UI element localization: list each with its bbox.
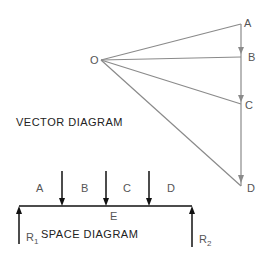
reaction-r1-arrow-icon [16, 206, 22, 214]
reaction-r1-letter: R [26, 231, 34, 243]
space-label-c: C [123, 183, 131, 194]
space-label-e: E [110, 211, 117, 222]
ray-oc [101, 60, 241, 104]
ray-ob [101, 57, 241, 60]
arrow-cd-icon [238, 175, 244, 183]
load-3-arrow-icon [146, 198, 152, 206]
space-label-b: B [81, 183, 88, 194]
reaction-r1-label: R1 [26, 232, 38, 243]
point-label-d: D [247, 183, 255, 194]
pole-label: O [90, 55, 99, 66]
point-label-a: A [244, 18, 251, 29]
diagram-canvas [0, 0, 269, 260]
space-label-a: A [36, 183, 43, 194]
arrow-bc-icon [238, 95, 244, 102]
point-label-c: C [245, 100, 253, 111]
reaction-r2-sub: 2 [207, 239, 211, 248]
load-1-arrow-icon [59, 198, 65, 206]
reaction-r1-sub: 1 [34, 237, 38, 246]
vector-diagram-title: VECTOR DIAGRAM [16, 117, 123, 128]
load-2-arrow-icon [103, 198, 109, 206]
vector-diagram [101, 24, 244, 186]
reaction-r2-arrow-icon [189, 206, 195, 214]
space-label-d: D [167, 183, 175, 194]
space-diagram-title: SPACE DIAGRAM [41, 229, 138, 240]
reaction-r2-label: R2 [199, 234, 211, 245]
point-label-b: B [248, 52, 255, 63]
reaction-r2-letter: R [199, 233, 207, 245]
arrow-ab-icon [238, 47, 244, 54]
ray-oa [101, 24, 241, 60]
